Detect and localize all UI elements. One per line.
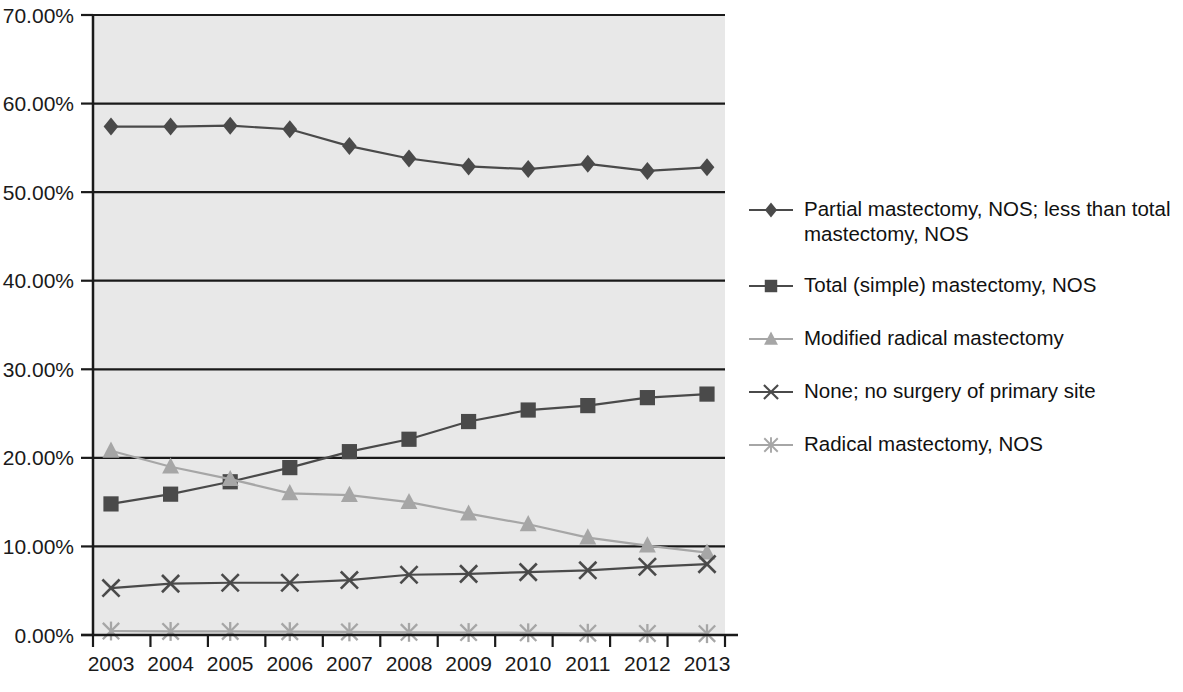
y-axis-tick-label: 60.00% bbox=[3, 92, 74, 115]
y-axis-ticks-group bbox=[81, 15, 93, 635]
square-marker bbox=[401, 432, 416, 447]
square-marker bbox=[163, 487, 178, 502]
plot-background-rect bbox=[93, 15, 725, 635]
y-axis-tick-labels-group: 0.00%10.00%20.00%30.00%40.00%50.00%60.00… bbox=[3, 4, 74, 647]
x-axis-tick-label: 2007 bbox=[326, 652, 373, 675]
legend-item-label: None; no surgery of primary site bbox=[804, 378, 1096, 403]
square-marker bbox=[699, 386, 714, 401]
square-marker bbox=[103, 496, 118, 511]
diamond-marker bbox=[765, 203, 777, 218]
square-marker bbox=[640, 390, 655, 405]
plot-area: 0.00%10.00%20.00%30.00%40.00%50.00%60.00… bbox=[0, 0, 760, 692]
x-axis-tick-labels-group: 2003200420052006200720082009201020112012… bbox=[88, 652, 731, 675]
legend-item[interactable]: None; no surgery of primary site bbox=[748, 378, 1178, 405]
square-marker bbox=[765, 280, 777, 292]
legend-item[interactable]: Total (simple) mastectomy, NOS bbox=[748, 272, 1178, 299]
x-axis-tick-label: 2004 bbox=[147, 652, 194, 675]
legend-item-label: Radical mastectomy, NOS bbox=[804, 431, 1043, 456]
x-axis-tick-label: 2010 bbox=[505, 652, 552, 675]
legend-diamond-icon bbox=[748, 197, 794, 223]
x-axis-tick-label: 2012 bbox=[624, 652, 671, 675]
legend-item-label: Partial mastectomy, NOS; less than total… bbox=[804, 196, 1176, 246]
y-axis-tick-label: 0.00% bbox=[14, 624, 74, 647]
legend-item[interactable]: Radical mastectomy, NOS bbox=[748, 431, 1178, 458]
x-axis-tick-label: 2011 bbox=[565, 652, 610, 675]
x-axis-tick-label: 2003 bbox=[88, 652, 135, 675]
legend-triangle-icon bbox=[748, 326, 794, 352]
y-axis-tick-label: 40.00% bbox=[3, 269, 74, 292]
y-axis-tick-label: 30.00% bbox=[3, 358, 74, 381]
square-marker bbox=[461, 414, 476, 429]
x-axis-tick-label: 2008 bbox=[386, 652, 433, 675]
square-marker bbox=[342, 444, 357, 459]
x-axis-tick-label: 2006 bbox=[266, 652, 313, 675]
legend-item[interactable]: Modified radical mastectomy bbox=[748, 325, 1178, 352]
legend-item-label: Total (simple) mastectomy, NOS bbox=[804, 272, 1096, 297]
x-axis-tick-label: 2013 bbox=[684, 652, 731, 675]
y-axis-tick-label: 50.00% bbox=[3, 181, 74, 204]
square-marker bbox=[580, 398, 595, 413]
chart-container: 0.00%10.00%20.00%30.00%40.00%50.00%60.00… bbox=[0, 0, 1183, 692]
square-marker bbox=[282, 460, 297, 475]
legend-item[interactable]: Partial mastectomy, NOS; less than total… bbox=[748, 196, 1178, 246]
chart-legend: Partial mastectomy, NOS; less than total… bbox=[748, 196, 1178, 484]
y-axis-tick-label: 20.00% bbox=[3, 446, 74, 469]
plot-background-group bbox=[93, 15, 725, 635]
y-axis-tick-label: 70.00% bbox=[3, 4, 74, 27]
y-axis-tick-label: 10.00% bbox=[3, 535, 74, 558]
legend-cross-icon bbox=[748, 379, 794, 405]
legend-item-label: Modified radical mastectomy bbox=[804, 325, 1064, 350]
square-marker bbox=[521, 402, 536, 417]
x-axis-tick-label: 2009 bbox=[445, 652, 492, 675]
x-axis-tick-label: 2005 bbox=[207, 652, 254, 675]
legend-asterisk-icon bbox=[748, 432, 794, 458]
legend-square-icon bbox=[748, 273, 794, 299]
line-chart-svg: 0.00%10.00%20.00%30.00%40.00%50.00%60.00… bbox=[0, 0, 760, 692]
